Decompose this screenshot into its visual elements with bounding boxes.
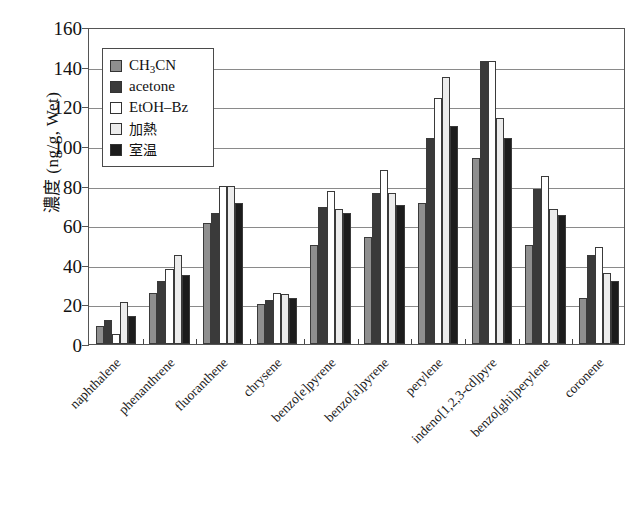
bar (480, 61, 488, 344)
legend-item: CH3CN (110, 55, 206, 76)
y-tick-label: 120 (38, 98, 82, 117)
legend-label: EtOH–Bz (129, 100, 188, 115)
x-tick-label: phenanthrene (115, 355, 178, 418)
bar (396, 205, 404, 344)
bar (488, 61, 496, 344)
legend-label: acetone (129, 79, 175, 94)
x-tick-label: naphthalene (67, 355, 124, 412)
x-tick-mark (411, 339, 412, 344)
legend-label: CH3CN (129, 58, 176, 73)
bar (603, 273, 611, 344)
x-tick-mark (519, 339, 520, 344)
bar (227, 186, 235, 345)
bar (533, 189, 541, 344)
y-tick-mark (82, 266, 89, 267)
bar (442, 77, 450, 344)
y-tick-label: 40 (38, 256, 82, 275)
bar-group (418, 29, 459, 344)
bar (496, 118, 504, 344)
bar (558, 215, 566, 344)
bar (434, 98, 442, 344)
x-tick-label: coronene (561, 355, 607, 401)
bar (579, 298, 587, 344)
y-tick-mark (82, 305, 89, 306)
y-tick-label: 20 (38, 296, 82, 315)
y-tick-label: 80 (38, 177, 82, 196)
legend-swatch-icon (110, 144, 122, 156)
bar (235, 203, 243, 344)
bar (364, 237, 372, 344)
x-tick-mark (250, 339, 251, 344)
x-axis-tick-labels: naphthalenephenanthrenefluoranthenechrys… (0, 345, 640, 510)
bar (165, 269, 173, 344)
bar (96, 326, 104, 344)
bar (318, 207, 326, 344)
bar (388, 193, 396, 344)
bar (157, 281, 165, 344)
legend-swatch-icon (110, 60, 122, 72)
bar (343, 213, 351, 344)
bar (104, 320, 112, 344)
bar-group (472, 29, 513, 344)
bar (327, 191, 335, 344)
bar (541, 176, 549, 344)
y-tick-mark (82, 187, 89, 188)
bar (281, 294, 289, 344)
y-tick-mark (82, 345, 89, 346)
y-tick-mark (82, 107, 89, 108)
x-tick-mark (572, 339, 573, 344)
bar (595, 247, 603, 344)
bar (525, 245, 533, 344)
y-tick-mark (82, 147, 89, 148)
bar (549, 209, 557, 344)
bar (182, 275, 190, 344)
bar (149, 293, 157, 345)
bar-group (310, 29, 351, 344)
bar (611, 281, 619, 344)
bar (450, 126, 458, 344)
bar (120, 302, 128, 344)
bar (372, 193, 380, 344)
bar (273, 293, 281, 345)
bar (426, 138, 434, 344)
bar (112, 334, 120, 344)
bar (380, 170, 388, 344)
x-tick-mark (358, 339, 359, 344)
chart-legend: CH3CNacetoneEtOH–Bz加熱室温 (102, 48, 214, 167)
x-tick-label: fluoranthene (172, 355, 232, 415)
bar (289, 298, 297, 344)
bar (310, 245, 318, 344)
bar (418, 203, 426, 344)
legend-item: acetone (110, 76, 206, 97)
bar (211, 213, 219, 344)
y-tick-mark (82, 28, 89, 29)
bar (257, 304, 265, 344)
y-tick-label: 100 (38, 137, 82, 156)
legend-swatch-icon (110, 81, 122, 93)
legend-item: 加熱 (110, 118, 206, 139)
legend-swatch-icon (110, 123, 122, 135)
y-tick-label: 60 (38, 217, 82, 236)
bar (472, 158, 480, 344)
y-tick-label: 160 (38, 19, 82, 38)
x-tick-label: perylene (402, 355, 446, 399)
legend-item: 室温 (110, 139, 206, 160)
x-tick-mark (196, 339, 197, 344)
bar (219, 186, 227, 345)
bar (587, 255, 595, 344)
bar-group (579, 29, 620, 344)
bar-group (525, 29, 566, 344)
bar (203, 223, 211, 344)
y-tick-mark (82, 226, 89, 227)
x-tick-mark (304, 339, 305, 344)
bar-group (364, 29, 405, 344)
x-tick-mark (143, 339, 144, 344)
bar (335, 209, 343, 344)
bar-chart-figure: 濃度 (ng/g, Wet) 020406080100120140160 CH3… (0, 0, 640, 510)
legend-label: 室温 (129, 143, 157, 157)
bar (128, 316, 136, 344)
bar (504, 138, 512, 344)
y-tick-label: 140 (38, 58, 82, 77)
x-tick-label: chrysene (240, 355, 285, 400)
legend-item: EtOH–Bz (110, 97, 206, 118)
